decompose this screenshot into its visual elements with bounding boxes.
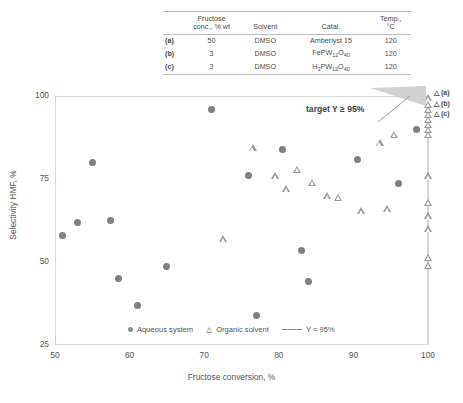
header-catalyst: Catal.: [292, 12, 371, 35]
table-header: Fructose conc., % wt Solvent Catal. Temp…: [163, 12, 411, 35]
data-point-aqueous: [163, 263, 170, 270]
header-conc-line2: conc., % wt: [193, 22, 230, 31]
legend-item-aqueous: Aqueous system: [128, 325, 193, 334]
data-point-organic: [424, 262, 432, 269]
data-point-aqueous: [134, 302, 141, 309]
data-point-aqueous: [245, 172, 252, 179]
table-row: (a) 50 DMSO Amberlyst 15 120: [163, 35, 411, 48]
target-wedge-icon: [370, 86, 432, 128]
data-point-organic: [424, 199, 432, 206]
x-tick-label: 80: [266, 350, 292, 360]
legend-item-refline: Y = 95%: [282, 325, 335, 334]
x-tick-label: 100: [415, 350, 441, 360]
header-temp-line2: °C: [387, 22, 395, 31]
filled-circle-icon: [128, 327, 133, 332]
legend-label-aqueous: Aqueous system: [137, 325, 193, 334]
cell-temp-b: 120: [370, 47, 411, 60]
catalyst-c-mid0: PW: [321, 62, 333, 71]
y-tick-label: 50: [23, 256, 49, 266]
data-point-aqueous: [253, 312, 260, 319]
cell-catalyst-c: H3PW12O40: [292, 61, 371, 75]
catalyst-b-sub2: 40: [344, 53, 350, 59]
data-point-organic: [424, 254, 432, 261]
table-header-row: Fructose conc., % wt Solvent Catal. Temp…: [163, 12, 411, 35]
data-point-aqueous: [298, 247, 305, 254]
row-label-a: (a): [163, 35, 184, 48]
legend-label-refline: Y = 95%: [306, 325, 335, 334]
legend-item-organic: Organic solvent: [206, 325, 269, 334]
header-temperature: Temp., °C: [370, 12, 411, 35]
table-body: (a) 50 DMSO Amberlyst 15 120 (b) 3 DMSO …: [163, 35, 411, 75]
y-axis-title: Selectivity HMF, %: [8, 130, 18, 280]
cell-solvent-a: DMSO: [239, 35, 292, 48]
data-point-organic: [334, 194, 342, 201]
x-tick-label: 70: [191, 350, 217, 360]
conditions-table: Fructose conc., % wt Solvent Catal. Temp…: [163, 11, 411, 75]
cell-catalyst-a: Amberlyst 15: [292, 35, 371, 48]
table-row: (c) 3 DMSO H3PW12O40 120: [163, 61, 411, 75]
data-point-aqueous: [208, 106, 215, 113]
data-point-organic: [323, 192, 331, 199]
y-tick-label: 100: [23, 90, 49, 100]
data-point-aqueous: [107, 217, 114, 224]
data-point-aqueous: [354, 156, 361, 163]
data-point-organic: [383, 205, 391, 212]
cell-conc-b: 3: [184, 47, 239, 60]
data-point-aqueous: [74, 219, 81, 226]
y-tick-label: 75: [23, 173, 49, 183]
catalyst-b-pre: FePW: [312, 48, 332, 57]
x-tick-label: 60: [117, 350, 143, 360]
table-row: (b) 3 DMSO FePW12O40 120: [163, 47, 411, 60]
row-label-b: (b): [163, 47, 184, 60]
data-point-aqueous: [395, 180, 402, 187]
data-point-aqueous: [115, 275, 122, 282]
row-label-c: (c): [163, 61, 184, 75]
y-tick-label: 25: [23, 339, 49, 349]
catalyst-a-text: Amberlyst 15: [310, 36, 352, 45]
data-point-aqueous: [279, 146, 286, 153]
data-point-organic: [424, 212, 432, 219]
data-point-aqueous: [305, 278, 312, 285]
point-label-c: △ (c): [434, 109, 450, 120]
x-tick-label: 90: [340, 350, 366, 360]
point-label-a: △ (a): [434, 88, 450, 99]
data-point-aqueous: [89, 159, 96, 166]
cell-temp-c: 120: [370, 61, 411, 75]
catalyst-c-sub2: 40: [344, 66, 350, 72]
line-icon: [282, 329, 302, 330]
data-point-organic: [282, 185, 290, 192]
cell-solvent-c: DMSO: [239, 61, 292, 75]
header-rowlabel: [163, 12, 184, 35]
figure-container: Fructose conc., % wt Solvent Catal. Temp…: [0, 0, 463, 403]
data-point-organic: [390, 131, 398, 138]
data-point-organic: [424, 172, 432, 179]
header-solvent: Solvent: [239, 12, 292, 35]
data-point-organic: [376, 139, 384, 146]
data-point-organic: [424, 131, 432, 138]
point-label-b: △ (b): [434, 99, 450, 110]
x-axis-title: Fructose conversion, %: [0, 372, 463, 382]
cell-catalyst-b: FePW12O40: [292, 47, 371, 60]
cell-conc-c: 3: [184, 61, 239, 75]
cell-conc-a: 50: [184, 35, 239, 48]
data-point-organic: [249, 144, 257, 151]
data-point-organic: [219, 235, 227, 242]
data-point-organic: [293, 166, 301, 173]
data-point-aqueous: [59, 232, 66, 239]
data-point-organic: [308, 179, 316, 186]
legend-label-organic: Organic solvent: [216, 325, 269, 334]
chart-legend: Aqueous system Organic solvent Y = 95%: [128, 325, 335, 334]
open-triangle-icon: [206, 327, 212, 333]
data-point-organic: [424, 225, 432, 232]
data-point-organic: [271, 172, 279, 179]
x-tick-label: 50: [42, 350, 68, 360]
cell-solvent-b: DMSO: [239, 47, 292, 60]
target-annotation: target Y ≥ 95%: [306, 104, 364, 114]
data-point-organic: [357, 207, 365, 214]
abc-point-labels: △ (a) △ (b) △ (c): [434, 88, 450, 120]
cell-temp-a: 120: [370, 35, 411, 48]
header-fructose-conc: Fructose conc., % wt: [184, 12, 239, 35]
data-markers-layer: [55, 96, 428, 345]
